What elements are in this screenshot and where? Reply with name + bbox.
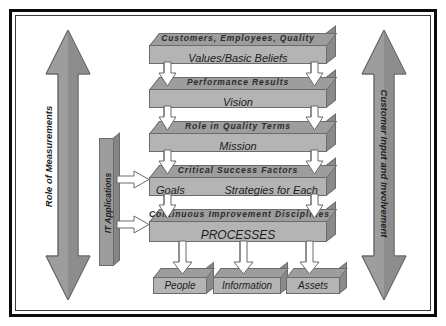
it-arrow-to-processes xyxy=(116,215,150,238)
flow-arrow-to-people xyxy=(170,240,196,276)
flow-arrow-to-information xyxy=(231,240,257,276)
output-box-side-face xyxy=(339,262,347,294)
flow-arrow-right-4 xyxy=(304,193,326,219)
flow-arrow-right-3 xyxy=(304,149,326,175)
flow-arrow-left-2 xyxy=(157,105,179,131)
band-values-basic-beliefs: Customers, Employees, Quality Values/Bas… xyxy=(149,33,327,64)
it-applications-label: IT Applications xyxy=(103,160,113,246)
diagram-frame: Role of Measurements Customer Input and … xyxy=(9,9,437,317)
flow-arrow-to-assets xyxy=(297,240,323,276)
flow-arrow-left-3 xyxy=(157,149,179,175)
diagram-canvas: Role of Measurements Customer Input and … xyxy=(16,16,434,314)
role-of-measurements-label: Role of Measurements xyxy=(43,97,54,217)
diagram-inner-frame: Role of Measurements Customer Input and … xyxy=(15,15,431,311)
customer-input-label: Customer Input and Involvement xyxy=(379,85,390,243)
it-arrow-to-goals xyxy=(116,170,150,193)
output-box-label: Information xyxy=(213,277,281,294)
it-bar-side-face xyxy=(113,132,120,266)
band-side-face xyxy=(326,201,336,242)
flow-arrow-right-2 xyxy=(304,105,326,131)
output-box-label: People xyxy=(153,277,207,294)
flow-arrow-left-4 xyxy=(157,193,179,219)
flow-arrow-left-1 xyxy=(157,61,179,87)
output-box-label: Assets xyxy=(286,277,340,294)
flow-arrow-right-1 xyxy=(304,61,326,87)
band-top-label: Customers, Employees, Quality xyxy=(149,32,327,45)
